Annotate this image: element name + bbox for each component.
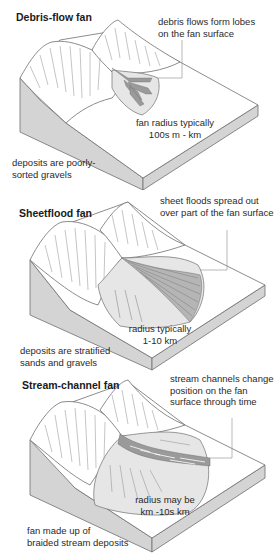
- radius-label: fan radius typically 100s m - km: [120, 117, 230, 140]
- callout-label: stream channels change position on the f…: [170, 373, 274, 408]
- radius-label: radius typically 1-10 km: [115, 323, 205, 346]
- radius-label: radius may be km -10s km: [120, 494, 210, 517]
- debris-flow-fan-panel: Debris-flow fan debris flows form lobes …: [0, 0, 274, 190]
- panel-title: Stream-channel fan: [22, 379, 119, 391]
- stream-channel-fan-panel: Stream-channel fan stream channels chang…: [0, 370, 274, 559]
- deposits-label: fan made up of braided stream deposits: [27, 525, 128, 548]
- panel-title: Sheetflood fan: [19, 207, 92, 219]
- deposits-label: deposits are poorly- sorted gravels: [12, 157, 95, 180]
- callout-label: debris flows form lobes on the fan surfa…: [158, 16, 255, 39]
- callout-label: sheet floods spread out over part of the…: [160, 195, 274, 218]
- sheetflood-fan-panel: Sheetflood fan sheet floods spread out o…: [0, 190, 274, 375]
- panel-title: Debris-flow fan: [16, 11, 92, 23]
- deposits-label: deposits are stratified sands and gravel…: [20, 345, 110, 368]
